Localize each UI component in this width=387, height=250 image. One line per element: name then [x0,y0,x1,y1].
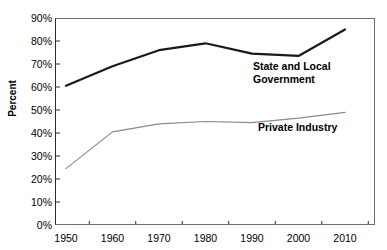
x-axis-tick-label: 1950 [43,232,89,244]
series-label-state-and-local-government: State and Local Government [253,60,331,86]
line-chart: Percent 90%80%70%60%50%40%30%20%10%0% 19… [0,0,387,250]
x-axis-tick-label: 1970 [136,232,182,244]
series-label-private-industry: Private Industry [258,121,337,134]
x-axis-tick-label: 1980 [183,232,229,244]
x-axis-tick-label: 2010 [322,232,368,244]
x-axis-tick-label: 1990 [229,232,275,244]
x-axis-tick-label: 2000 [276,232,322,244]
x-axis-tick-label: 1960 [90,232,136,244]
